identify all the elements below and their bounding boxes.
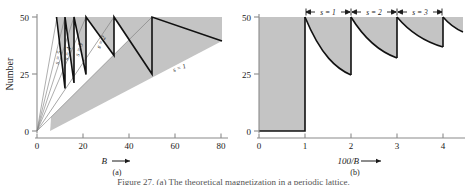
panel-b-x-axis: 0 1 2 3 4 — [257, 134, 465, 152]
panel-a: s = 5 s = 4 s = 3 s = 2 s = 1 50 25 0 Nu… — [0, 0, 233, 185]
interval-label-s2: s = 2 — [366, 8, 382, 17]
panel-a-x-axis-arrow-icon — [125, 159, 130, 164]
panel-b-xtick-3: 3 — [395, 141, 400, 151]
panel-b: s = 1 s = 2 s = 3 50 25 0 — [233, 0, 466, 185]
panel-a-plot: s = 5 s = 4 s = 3 s = 2 s = 1 50 25 0 Nu… — [0, 0, 233, 185]
panel-b-x-axis-label: 100/B — [338, 156, 360, 166]
panel-a-y-axis: 50 25 0 — [20, 13, 37, 137]
panel-b-ytick-25: 25 — [242, 70, 252, 80]
panel-a-x-axis-label: B — [102, 156, 108, 166]
panel-a-ytick-0: 0 — [25, 127, 30, 137]
panel-b-xtick-4: 4 — [441, 141, 446, 151]
panel-a-xtick-60: 60 — [171, 141, 181, 151]
panel-b-shaded-region — [259, 17, 463, 131]
figure-caption-row: Figure 27. (a) The theoretical magnetiza… — [0, 176, 467, 185]
panel-a-x-axis: 0 20 40 60 80 — [35, 134, 228, 152]
panel-b-plot: s = 1 s = 2 s = 3 50 25 0 — [233, 0, 466, 185]
panel-b-xtick-0: 0 — [257, 141, 262, 151]
panel-b-xtick-2: 2 — [349, 141, 354, 151]
panel-a-xtick-20: 20 — [79, 141, 89, 151]
panel-a-y-axis-label: Number — [4, 57, 15, 90]
panel-b-y-axis: 50 25 0 — [242, 13, 259, 137]
panel-a-x-axis-title: B — [102, 156, 131, 166]
panel-b-ytick-50: 50 — [242, 13, 252, 23]
panel-b-ytick-0: 0 — [247, 127, 252, 137]
panel-a-xtick-0: 0 — [35, 141, 40, 151]
panel-b-x-axis-title: 100/B — [338, 156, 382, 166]
panel-a-xtick-80: 80 — [217, 141, 227, 151]
panel-b-interval-labels: s = 1 s = 2 s = 3 — [315, 7, 433, 17]
figure-caption: Figure 27. (a) The theoretical magnetiza… — [0, 176, 467, 185]
panel-a-ytick-25: 25 — [20, 70, 30, 80]
interval-label-s1: s = 1 — [320, 8, 335, 17]
panel-a-xtick-40: 40 — [125, 141, 135, 151]
figure-two-panel-quantum-oscillations: s = 5 s = 4 s = 3 s = 2 s = 1 50 25 0 Nu… — [0, 0, 467, 185]
interval-label-s3: s = 3 — [412, 8, 428, 17]
panel-a-ytick-50: 50 — [20, 13, 30, 23]
panel-b-x-axis-arrow-icon — [376, 159, 381, 164]
panel-b-xtick-1: 1 — [303, 141, 308, 151]
